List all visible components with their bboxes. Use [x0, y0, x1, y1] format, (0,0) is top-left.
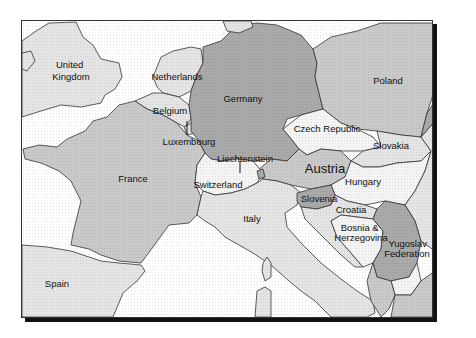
- label-italy: Italy: [243, 213, 261, 224]
- label-bosnia-herzegovina: Bosnia & Herzegovina: [334, 222, 388, 243]
- label-belgium: Belgium: [153, 105, 187, 116]
- label-netherlands: Netherlands: [151, 71, 202, 82]
- map-frame: United Kingdom Netherlands Belgium Luxem…: [21, 20, 433, 318]
- europe-map: United Kingdom Netherlands Belgium Luxem…: [22, 21, 432, 317]
- label-austria: Austria: [305, 161, 346, 176]
- label-germany: Germany: [223, 93, 262, 104]
- label-switzerland: Switzerland: [193, 179, 242, 190]
- label-yugoslav-federation: Yugoslav Federation: [384, 238, 429, 259]
- label-slovenia: Slovenia: [301, 193, 338, 204]
- label-czech-republic: Czech Republic: [294, 123, 361, 134]
- label-liechtenstein: Liechtenstein: [217, 153, 273, 164]
- label-luxembourg: Luxembourg: [163, 136, 216, 147]
- label-slovakia: Slovakia: [373, 140, 410, 151]
- label-croatia: Croatia: [336, 204, 367, 215]
- label-united-kingdom: United Kingdom: [52, 59, 90, 82]
- label-spain: Spain: [45, 278, 69, 289]
- label-france: France: [118, 173, 148, 184]
- label-hungary: Hungary: [345, 176, 381, 187]
- label-poland: Poland: [373, 75, 403, 86]
